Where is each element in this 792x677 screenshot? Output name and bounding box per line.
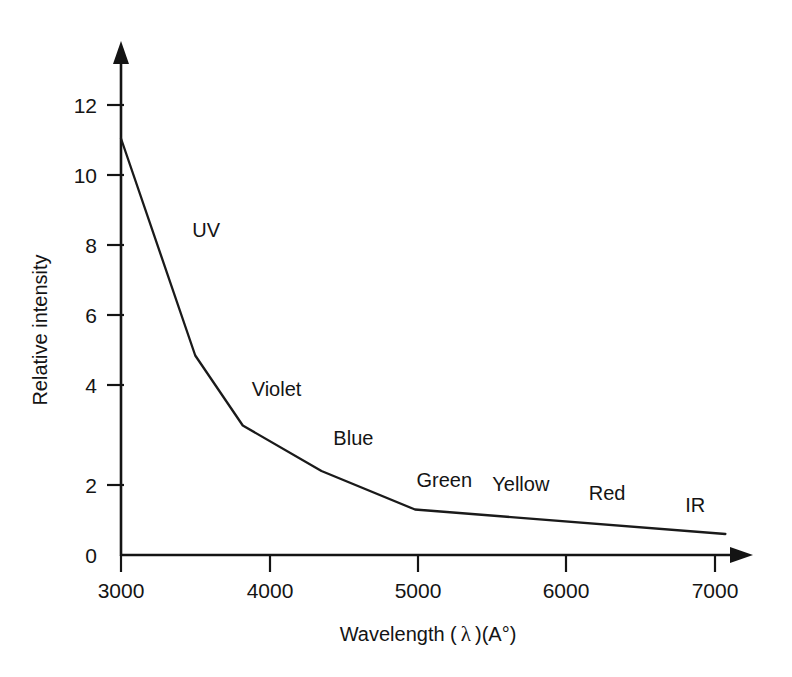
x-axis	[121, 547, 753, 563]
x-axis-title-suffix: )(A°)	[475, 623, 516, 645]
spectral-intensity-chart: 12 10 8 6 4 2 0 3000 4000 5000 6000 7000	[0, 0, 792, 677]
x-tick-label-4000: 4000	[247, 579, 294, 602]
label-red: Red	[589, 482, 626, 504]
y-tick-label-10: 10	[74, 164, 97, 187]
y-tick-label-12: 12	[74, 94, 97, 117]
y-tick-label-8: 8	[85, 234, 97, 257]
x-axis-title-prefix: Wavelength (	[340, 623, 457, 645]
x-tick-label-5000: 5000	[395, 579, 442, 602]
x-tick-label-7000: 7000	[692, 579, 739, 602]
lambda-symbol-icon: λ	[461, 622, 472, 646]
y-tick-label-0: 0	[85, 544, 97, 567]
label-uv: UV	[192, 219, 220, 241]
y-tick-labels: 12 10 8 6 4 2 0	[74, 94, 98, 567]
svg-text:Wavelength (λ)(A°): Wavelength (λ)(A°)	[340, 622, 517, 646]
x-tick-label-3000: 3000	[98, 579, 145, 602]
curve-region-labels: UV Violet Blue Green Yellow Red IR	[192, 219, 705, 517]
label-yellow: Yellow	[492, 473, 550, 495]
label-green: Green	[417, 469, 473, 491]
y-tick-label-4: 4	[85, 374, 97, 397]
x-tick-label-6000: 6000	[543, 579, 590, 602]
x-tick-labels: 3000 4000 5000 6000 7000	[98, 579, 739, 602]
y-axis	[113, 41, 129, 556]
y-axis-title: Relative intensity	[29, 254, 51, 405]
chart-page: 12 10 8 6 4 2 0 3000 4000 5000 6000 7000	[0, 0, 792, 677]
label-blue: Blue	[333, 427, 373, 449]
x-axis-title: Wavelength (λ)(A°)	[340, 622, 517, 646]
x-tick-marks	[121, 555, 715, 572]
y-axis-arrow-icon	[113, 41, 129, 64]
label-violet: Violet	[252, 378, 302, 400]
x-axis-arrow-icon	[730, 547, 753, 563]
y-tick-label-6: 6	[85, 304, 97, 327]
y-tick-label-2: 2	[85, 474, 97, 497]
label-ir: IR	[685, 494, 705, 516]
